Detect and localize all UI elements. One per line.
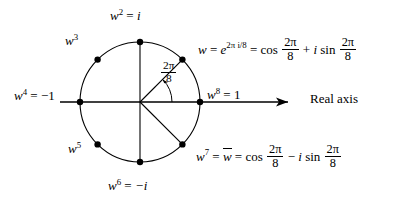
label-w5-exponent: 5 bbox=[77, 140, 81, 150]
w7-formula-cos: cos bbox=[245, 149, 262, 164]
angle-numerator: 2π bbox=[161, 60, 176, 71]
w7-formula-fraction-1: 2π 8 bbox=[267, 143, 283, 170]
w-formula-sin: sin bbox=[320, 42, 335, 57]
point-w6 bbox=[137, 159, 143, 165]
label-w6-exponent: 6 bbox=[117, 177, 121, 187]
label-w6-var: w bbox=[108, 178, 117, 193]
w7-formula-equals-1: = bbox=[212, 149, 219, 164]
point-w3 bbox=[94, 56, 100, 62]
label-w7-formula: w7 = w = cos 2π 8 − i sin 2π 8 bbox=[196, 143, 342, 170]
label-w-formula: w = e2π i/8 = cos 2π 8 + i sin 2π 8 bbox=[198, 36, 357, 63]
label-w2-equals: = bbox=[126, 8, 133, 23]
w-formula-var: w bbox=[198, 42, 207, 57]
label-w4-exponent: 4 bbox=[23, 87, 27, 97]
point-w8 bbox=[197, 99, 203, 105]
w7-formula-var: w bbox=[196, 149, 205, 164]
label-w8-exponent: 8 bbox=[216, 86, 220, 96]
label-w6: w6 = −i bbox=[108, 178, 147, 192]
spoke-to-w7 bbox=[140, 102, 182, 144]
label-w2-value: i bbox=[137, 8, 141, 23]
w-formula-den-1: 8 bbox=[282, 50, 298, 62]
label-w2: w2 = i bbox=[110, 8, 141, 22]
point-w4 bbox=[77, 99, 83, 105]
label-w3-exponent: 3 bbox=[74, 32, 78, 42]
w7-formula-den-1: 8 bbox=[267, 157, 283, 169]
w-formula-exponent: 2π i/8 bbox=[226, 40, 246, 50]
w-formula-den-2: 8 bbox=[340, 50, 356, 62]
w-formula-equals-1: = bbox=[210, 42, 217, 57]
label-w3-var: w bbox=[65, 33, 74, 48]
label-w4-var: w bbox=[14, 88, 23, 103]
label-w2-exponent: 2 bbox=[119, 7, 123, 17]
w-formula-fraction-2: 2π 8 bbox=[340, 36, 356, 63]
label-w4-value: −1 bbox=[41, 88, 55, 103]
label-w4-equals: = bbox=[30, 88, 37, 103]
point-w7 bbox=[179, 141, 185, 147]
point-w2 bbox=[137, 39, 143, 45]
w-formula-i: i bbox=[313, 42, 317, 57]
label-w8-equals: = bbox=[223, 87, 230, 102]
point-w bbox=[179, 56, 185, 62]
label-w8-var: w bbox=[207, 87, 216, 102]
w7-formula-sin: sin bbox=[305, 149, 320, 164]
label-w4: w4 = −1 bbox=[14, 88, 55, 102]
label-w5: w5 bbox=[68, 141, 81, 155]
label-w3: w3 bbox=[65, 33, 78, 47]
w7-formula-i: i bbox=[298, 149, 302, 164]
angle-denominator: 8 bbox=[161, 73, 176, 84]
label-w2-var: w bbox=[110, 8, 119, 23]
point-w5 bbox=[94, 141, 100, 147]
w7-formula-equals-2: = bbox=[235, 149, 242, 164]
w7-formula-num-2: 2π bbox=[325, 143, 341, 155]
w7-formula-exponent: 7 bbox=[205, 147, 209, 157]
label-w8: w8 = 1 bbox=[207, 87, 240, 101]
label-real-axis: Real axis bbox=[310, 92, 358, 105]
angle-fraction: 2π 8 bbox=[161, 60, 176, 85]
w7-formula-minus: − bbox=[288, 149, 295, 164]
w7-formula-fraction-2: 2π 8 bbox=[325, 143, 341, 170]
w-formula-fraction-1: 2π 8 bbox=[282, 36, 298, 63]
w-formula-equals-2: = bbox=[250, 42, 257, 57]
label-w6-equals: = bbox=[124, 178, 131, 193]
w-formula-cos: cos bbox=[261, 42, 278, 57]
figure-canvas: w2 = i w3 w4 = −1 w5 w6 = −i w8 = 1 2π 8… bbox=[0, 0, 395, 202]
w-formula-plus: + bbox=[303, 42, 310, 57]
w7-formula-num-1: 2π bbox=[267, 143, 283, 155]
w-formula-num-1: 2π bbox=[282, 36, 298, 48]
w-formula-num-2: 2π bbox=[340, 36, 356, 48]
w7-formula-den-2: 8 bbox=[325, 157, 341, 169]
w7-formula-conjugate: w bbox=[223, 148, 232, 163]
label-w8-value: 1 bbox=[234, 87, 241, 102]
label-w6-value: −i bbox=[135, 178, 147, 193]
label-w5-var: w bbox=[68, 141, 77, 156]
label-angle-2pi-over-8: 2π 8 bbox=[160, 60, 177, 85]
